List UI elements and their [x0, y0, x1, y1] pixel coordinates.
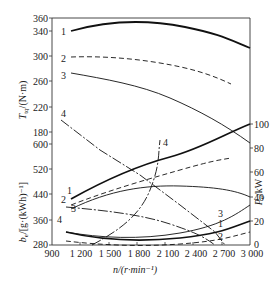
tick-label: 1 200: [70, 248, 93, 259]
torque-label-1: 1: [61, 26, 66, 37]
bsfc-axis-tick-labels: 600 520 440 360 280: [33, 139, 48, 250]
tick-label: 300: [33, 51, 48, 62]
torque-axis-tick-labels: 360 340 300 260 220 180: [33, 13, 48, 138]
power-curve-2: [71, 158, 231, 205]
tick-label: 80: [254, 143, 264, 154]
tick-label: 100: [254, 119, 269, 130]
power-label-2: 2: [61, 194, 66, 205]
power-curve-1: [71, 124, 250, 199]
power-label-4: 4: [163, 137, 168, 148]
tick-label: 20: [254, 216, 264, 227]
tick-label: 340: [33, 26, 48, 37]
bsfc-axis-title: be/[g·(kWh)⁻¹]: [17, 182, 30, 242]
torque-curve-2: [71, 57, 231, 84]
tick-label: 2 100: [157, 248, 180, 259]
tick-label: 1 800: [128, 248, 151, 259]
torque-label-2: 2: [61, 53, 66, 64]
curve-labels: 1 2 3 4 1 2 3 4 4 3 1 2: [57, 26, 223, 242]
svg-text:Pe/kW: Pe/kW: [253, 178, 266, 206]
bsfc-label-1: 1: [218, 218, 223, 229]
tick-label: 60: [254, 167, 264, 178]
power-curves: [71, 124, 250, 245]
power-label-1: 1: [67, 185, 72, 196]
power-curve-3: [71, 186, 250, 209]
tick-label: 900: [45, 248, 60, 259]
tick-label: 2 400: [185, 248, 208, 259]
tick-label: 2 700: [213, 248, 236, 259]
bsfc-label-2: 2: [218, 231, 223, 242]
power-label-3: 3: [71, 203, 76, 214]
engine-characteristic-chart: 360 340 300 260 220 180 600 520 440 360 …: [0, 0, 270, 284]
torque-label-3: 3: [61, 70, 66, 81]
svg-text:be/[g·(kWh)⁻¹]: be/[g·(kWh)⁻¹]: [17, 182, 30, 242]
tick-label: 600: [33, 139, 48, 150]
tick-label: 360: [33, 13, 48, 24]
tick-label: 1 500: [99, 248, 122, 259]
tick-label: 220: [33, 102, 48, 113]
power-axis-title: Pe/kW: [253, 178, 266, 206]
torque-curve-3: [71, 73, 250, 143]
tick-label: 440: [33, 189, 48, 200]
x-axis-tick-labels: 900 1 200 1 500 1 800 2 100 2 400 2 700 …: [45, 248, 264, 259]
torque-axis-title: Ttq/(N·m): [17, 81, 30, 120]
torque-label-4: 4: [61, 108, 66, 119]
x-axis-title: n/(r·min⁻¹): [113, 264, 158, 276]
torque-curve-1: [71, 22, 250, 48]
svg-text:Ttq/(N·m): Ttq/(N·m): [17, 81, 30, 120]
torque-curve-4: [61, 120, 225, 245]
bsfc-label-4: 4: [57, 214, 62, 225]
power-curve-4: [92, 140, 160, 245]
tick-label: 360: [33, 215, 48, 226]
tick-label: 3 000: [241, 248, 264, 259]
chart-svg: 360 340 300 260 220 180 600 520 440 360 …: [0, 0, 270, 284]
tick-label: 520: [33, 164, 48, 175]
tick-label: 260: [33, 76, 48, 87]
tick-label: 180: [33, 127, 48, 138]
